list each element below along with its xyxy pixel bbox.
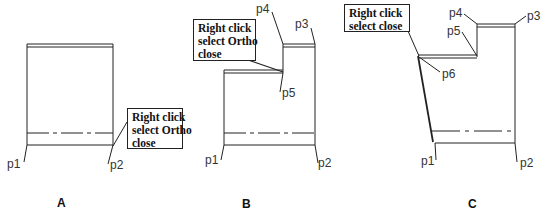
figure-a-shape [24, 44, 127, 164]
point-label-b-p1: p1 [205, 153, 219, 167]
point-label-c-p6: p6 [442, 67, 456, 81]
callout-c: Right click select close [344, 4, 410, 32]
point-label-b-p2: p2 [318, 156, 332, 170]
callout-b-line-3: close [198, 48, 251, 61]
diagram-canvas: p1 p2 p1 p2 p3 p4 p5 p1 p2 p3 p4 p5 p6 A… [0, 0, 546, 218]
point-label-a-p1: p1 [7, 157, 21, 171]
caption-c: C [468, 197, 477, 211]
callout-a-line-3: close [132, 137, 178, 150]
callout-b-line-2: select Ortho [198, 35, 251, 48]
point-label-a-p2: p2 [110, 158, 124, 172]
figure-c-shape [408, 14, 526, 162]
point-label-c-p3: p3 [527, 9, 541, 23]
point-label-b-p4: p4 [256, 2, 270, 16]
caption-b: B [242, 197, 251, 211]
callout-c-line-2: select close [349, 20, 405, 33]
caption-a: A [57, 196, 66, 210]
point-label-c-p2: p2 [520, 156, 534, 170]
callout-a-line-2: select Ortho [132, 124, 178, 137]
point-label-c-p4: p4 [449, 6, 463, 20]
callout-b: Right click select Ortho close [193, 19, 256, 61]
point-label-c-p5: p5 [447, 24, 461, 38]
point-label-b-p5: p5 [282, 86, 296, 100]
point-label-c-p1: p1 [421, 154, 435, 168]
callout-a: Right click select Ortho close [127, 108, 183, 149]
point-label-b-p3: p3 [295, 17, 309, 31]
callout-c-line-1: Right click [349, 7, 405, 20]
callout-a-line-1: Right click [132, 111, 178, 124]
callout-b-line-1: Right click [198, 22, 251, 35]
